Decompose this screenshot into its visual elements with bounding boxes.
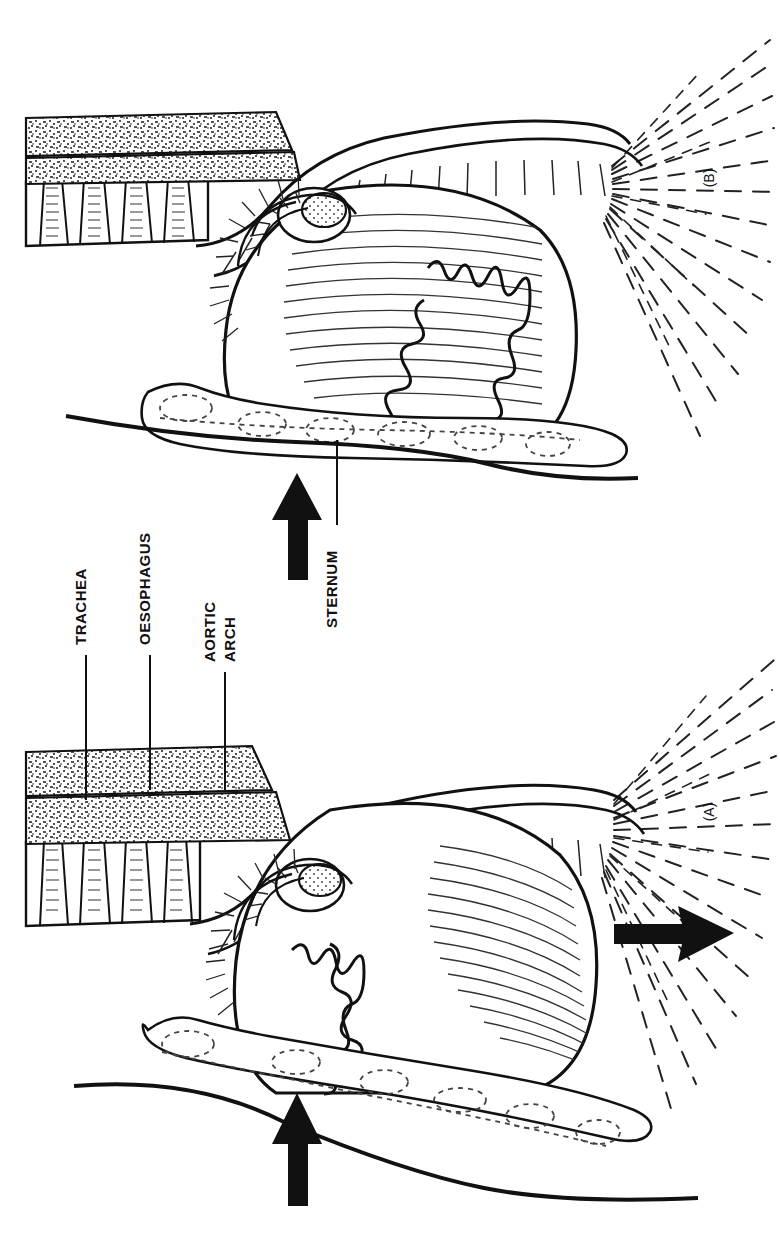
panel-label-A: (A) — [701, 803, 717, 822]
trachea-oesophagus-bands-a — [26, 746, 290, 844]
anatomical-illustration-canvas: (B) — [0, 0, 780, 1239]
vertebral-column-b — [26, 178, 208, 246]
vertebral-column-a — [26, 838, 200, 926]
panel-label-B: (B) — [701, 169, 717, 188]
label-trachea: TRACHEA — [72, 568, 89, 645]
label-aortic: AORTIC — [201, 602, 218, 663]
label-sternum: STERNUM — [323, 550, 340, 628]
label-oesophagus: OESOPHAGUS — [136, 532, 153, 645]
trachea-oesophagus-bands-b — [26, 112, 300, 184]
illustration-page: (B) — [0, 0, 780, 1239]
label-arch: ARCH — [221, 617, 238, 662]
